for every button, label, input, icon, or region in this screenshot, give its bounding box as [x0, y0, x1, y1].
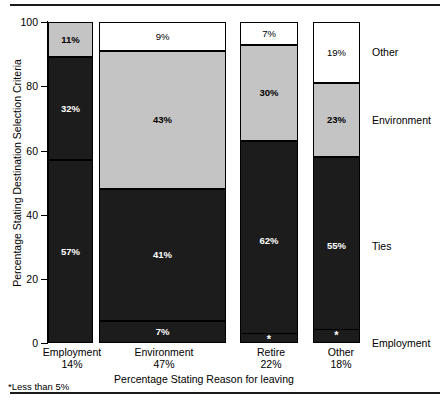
segment-label: *: [334, 330, 338, 341]
bar-employment[interactable]: 11% 32% 57%: [48, 22, 93, 343]
legend-item-ties: Ties: [372, 240, 391, 252]
chart-figure: 100 80 60 40 20 0 Percentage Stating Des…: [0, 0, 445, 401]
segment-other-environment[interactable]: 23%: [313, 83, 360, 157]
segment-other-ties[interactable]: 55%: [313, 157, 360, 334]
segment-environment-other[interactable]: 9%: [99, 22, 226, 51]
segment-environment-employment[interactable]: 7%: [99, 321, 226, 344]
segment-label: 32%: [61, 104, 80, 114]
y-tick-label-100: 100: [20, 16, 38, 28]
y-tick-0: [41, 343, 47, 344]
bar-retire[interactable]: 7% 30% 62% *: [240, 22, 298, 343]
x-axis-category-environment: Environment 47%: [99, 346, 229, 370]
bar-environment[interactable]: 9% 43% 41% 7%: [99, 22, 226, 343]
bar-other[interactable]: 19% 23% 55% *: [313, 22, 360, 343]
segment-label: 41%: [153, 250, 172, 260]
segment-retire-environment[interactable]: 30%: [240, 45, 298, 141]
y-tick-100: [41, 22, 47, 23]
y-tick-80: [41, 86, 47, 87]
segment-employment-ties[interactable]: 57%: [48, 160, 93, 343]
y-tick-label-20: 20: [26, 273, 38, 285]
x-category-name: Environment: [99, 346, 229, 358]
x-category-percent: 18%: [295, 358, 387, 370]
segment-environment-ties[interactable]: 41%: [99, 189, 226, 321]
plot-area: 11% 32% 57% 9% 43% 41%: [48, 22, 360, 343]
y-axis-title: Percentage Stating Destination Selection…: [11, 8, 23, 338]
segment-other-employment[interactable]: *: [313, 329, 360, 343]
segment-employment-environment[interactable]: 32%: [48, 57, 93, 160]
segment-retire-other[interactable]: 7%: [240, 22, 298, 45]
y-tick-20: [41, 279, 47, 280]
y-tick-60: [41, 151, 47, 152]
segment-other-other[interactable]: 19%: [313, 22, 360, 83]
segment-label: 43%: [153, 115, 172, 125]
x-category-percent: 47%: [99, 358, 229, 370]
segment-label: 23%: [327, 115, 346, 125]
segment-label: 55%: [327, 241, 346, 251]
y-tick-40: [41, 215, 47, 216]
segment-label: 9%: [156, 32, 170, 42]
legend-item-other: Other: [372, 46, 398, 58]
segment-label: 62%: [259, 236, 278, 246]
segment-label: 7%: [262, 29, 276, 39]
segment-environment-environment[interactable]: 43%: [99, 51, 226, 189]
bottom-rule: [10, 392, 440, 394]
legend-item-environment: Environment: [372, 114, 431, 126]
segment-label: 57%: [61, 247, 80, 257]
segment-label: 11%: [61, 35, 80, 45]
segment-label: *: [267, 334, 271, 343]
segment-employment-other[interactable]: 11%: [48, 22, 93, 57]
y-tick-label-40: 40: [26, 209, 38, 221]
footnote: *Less than 5%: [8, 381, 69, 392]
segment-retire-ties[interactable]: 62%: [240, 141, 298, 340]
y-tick-label-60: 60: [26, 145, 38, 157]
legend-item-employment: Employment: [372, 337, 430, 349]
x-axis-title: Percentage Stating Reason for leaving: [48, 373, 360, 385]
top-rule: [10, 4, 440, 6]
segment-label: 19%: [327, 48, 346, 58]
segment-retire-employment[interactable]: *: [240, 333, 298, 343]
x-axis-category-other: Other 18%: [295, 346, 387, 370]
segment-label: 7%: [156, 327, 170, 337]
y-tick-label-80: 80: [26, 80, 38, 92]
segment-label: 30%: [259, 88, 278, 98]
